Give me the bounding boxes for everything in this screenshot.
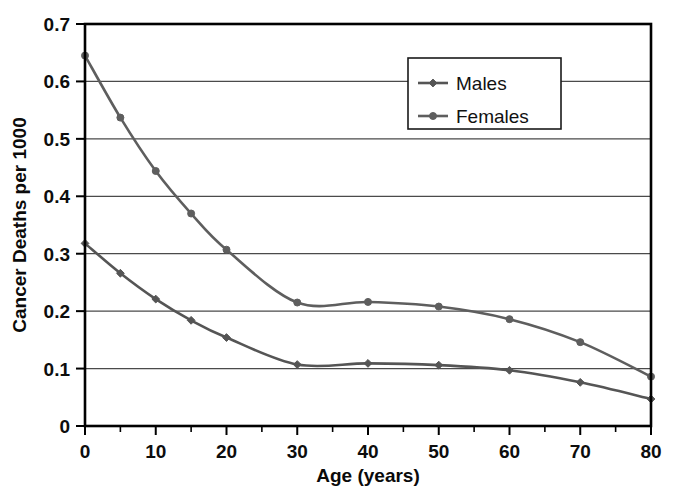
x-axis-title: Age (years)	[316, 465, 420, 486]
data-point	[223, 246, 230, 253]
y-tick-label: 0.7	[44, 14, 70, 35]
y-tick-label: 0.5	[44, 129, 71, 150]
legend-marker-circle-icon	[430, 113, 437, 120]
cancer-deaths-line-chart: 00.10.20.30.40.50.60.7 01020304050607080…	[0, 0, 683, 494]
chart-background	[0, 0, 683, 494]
data-point	[365, 298, 372, 305]
x-tick-label: 20	[216, 441, 237, 462]
x-tick-label: 0	[80, 441, 91, 462]
data-point	[152, 168, 159, 175]
y-tick-label: 0	[59, 416, 70, 437]
y-tick-label: 0.3	[44, 244, 70, 265]
data-point	[188, 210, 195, 217]
y-axis-title: Cancer Deaths per 1000	[9, 117, 30, 332]
x-tick-label: 40	[357, 441, 378, 462]
x-tick-label: 60	[499, 441, 520, 462]
data-point	[506, 316, 513, 323]
x-tick-label: 80	[640, 441, 661, 462]
data-point	[577, 339, 584, 346]
data-point	[117, 114, 124, 121]
legend-label: Females	[456, 106, 529, 127]
y-tick-label: 0.2	[44, 301, 70, 322]
data-point	[435, 303, 442, 310]
legend-label: Males	[456, 73, 507, 94]
y-tick-label: 0.4	[44, 186, 71, 207]
x-tick-label: 70	[570, 441, 591, 462]
y-tick-label: 0.1	[44, 359, 71, 380]
x-tick-label: 50	[428, 441, 449, 462]
chart-legend[interactable]: MalesFemales	[408, 58, 561, 129]
y-tick-label: 0.6	[44, 71, 70, 92]
data-point	[294, 299, 301, 306]
x-tick-label: 10	[145, 441, 166, 462]
chart-container: 00.10.20.30.40.50.60.7 01020304050607080…	[0, 0, 683, 494]
x-tick-label: 30	[287, 441, 308, 462]
